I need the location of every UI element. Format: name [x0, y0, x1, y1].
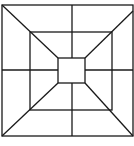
diagram-canvas — [0, 0, 134, 146]
diagonal-top-right — [85, 11, 133, 58]
inner-square — [58, 58, 85, 83]
nested-squares-diagram — [0, 0, 134, 146]
